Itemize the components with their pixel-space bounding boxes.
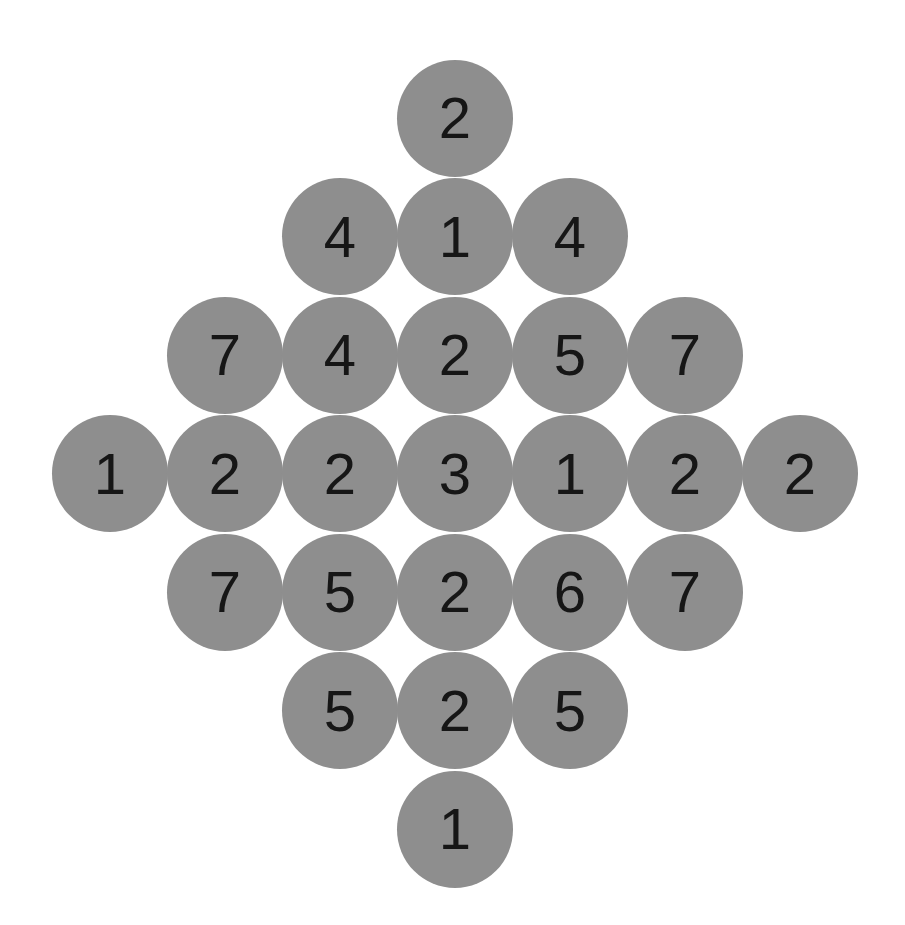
cell-number: 2 (439, 89, 471, 147)
circle-cell-r2-c5[interactable]: 7 (627, 297, 743, 414)
circle-cell-r4-c1[interactable]: 7 (167, 534, 283, 651)
circle-cell-r3-c5[interactable]: 2 (627, 415, 743, 532)
cell-number: 4 (324, 208, 356, 266)
cell-number: 7 (209, 563, 241, 621)
cell-number: 7 (669, 326, 701, 384)
circle-cell-r4-c3[interactable]: 2 (397, 534, 513, 651)
cell-number: 3 (439, 445, 471, 503)
circle-cell-r2-c3[interactable]: 2 (397, 297, 513, 414)
circle-cell-r4-c5[interactable]: 7 (627, 534, 743, 651)
cell-number: 2 (209, 445, 241, 503)
circle-cell-r6-c3[interactable]: 1 (397, 771, 513, 888)
cell-number: 2 (784, 445, 816, 503)
cell-number: 2 (439, 326, 471, 384)
cell-number: 4 (324, 326, 356, 384)
circle-cell-r4-c4[interactable]: 6 (512, 534, 628, 651)
circle-cell-r3-c3[interactable]: 3 (397, 415, 513, 532)
cell-number: 4 (554, 208, 586, 266)
cell-number: 1 (439, 800, 471, 858)
circle-cell-r3-c0[interactable]: 1 (52, 415, 168, 532)
puzzle-board: 2414742571223122752675251 (0, 0, 905, 925)
cell-number: 2 (669, 445, 701, 503)
cell-number: 2 (439, 682, 471, 740)
cell-number: 5 (554, 326, 586, 384)
cell-number: 7 (209, 326, 241, 384)
circle-cell-r1-c4[interactable]: 4 (512, 178, 628, 295)
cell-number: 5 (324, 563, 356, 621)
cell-number: 2 (324, 445, 356, 503)
cell-number: 2 (439, 563, 471, 621)
circle-cell-r3-c1[interactable]: 2 (167, 415, 283, 532)
circle-cell-r5-c4[interactable]: 5 (512, 652, 628, 769)
circle-cell-r3-c4[interactable]: 1 (512, 415, 628, 532)
circle-cell-r3-c6[interactable]: 2 (742, 415, 858, 532)
circle-cell-r2-c4[interactable]: 5 (512, 297, 628, 414)
circle-cell-r2-c2[interactable]: 4 (282, 297, 398, 414)
cell-number: 1 (94, 445, 126, 503)
cell-number: 1 (554, 445, 586, 503)
cell-number: 7 (669, 563, 701, 621)
cell-number: 5 (324, 682, 356, 740)
circle-cell-r3-c2[interactable]: 2 (282, 415, 398, 532)
cell-number: 5 (554, 682, 586, 740)
cell-number: 1 (439, 208, 471, 266)
cell-number: 6 (554, 563, 586, 621)
circle-cell-r5-c2[interactable]: 5 (282, 652, 398, 769)
circle-cell-r0-c3[interactable]: 2 (397, 60, 513, 177)
circle-cell-r4-c2[interactable]: 5 (282, 534, 398, 651)
circle-cell-r5-c3[interactable]: 2 (397, 652, 513, 769)
circle-cell-r1-c3[interactable]: 1 (397, 178, 513, 295)
circle-cell-r1-c2[interactable]: 4 (282, 178, 398, 295)
circle-cell-r2-c1[interactable]: 7 (167, 297, 283, 414)
